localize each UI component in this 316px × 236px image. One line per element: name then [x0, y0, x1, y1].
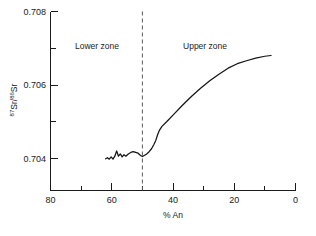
figure-container: 0.708 0.706 0.704 87Sr/86Sr 80 60 40 — [0, 0, 316, 236]
y-axis-title: 87Sr/86Sr — [9, 83, 19, 116]
plot-axes — [51, 12, 296, 191]
y-axis-title-end: Sr — [9, 83, 19, 92]
x-tick-label-40: 40 — [168, 195, 178, 205]
sr-isotope-line-chart: 0.708 0.706 0.704 87Sr/86Sr 80 60 40 — [0, 0, 316, 236]
y-tick-label-mid: 0.706 — [23, 80, 46, 90]
data-series-line — [106, 56, 271, 160]
x-tick-label-0: 0 — [293, 195, 298, 205]
x-axis-tick-labels: 80 60 40 20 0 — [45, 195, 298, 205]
lower-zone-label: Lower zone — [75, 41, 119, 51]
x-tick-label-60: 60 — [107, 195, 117, 205]
y-axis-ticks — [51, 12, 58, 159]
x-tick-label-80: 80 — [45, 195, 55, 205]
y-tick-label-bottom: 0.704 — [23, 154, 46, 164]
y-axis-tick-labels: 0.708 0.706 0.704 — [23, 7, 46, 164]
y-tick-label-top: 0.708 — [23, 7, 46, 17]
axis-lines — [51, 12, 296, 191]
x-tick-label-20: 20 — [229, 195, 239, 205]
svg-text:87Sr/86Sr: 87Sr/86Sr — [9, 83, 19, 116]
x-axis-ticks — [51, 183, 296, 191]
y-axis-title-mid: Sr/ — [9, 98, 19, 110]
upper-zone-label: Upper zone — [183, 41, 227, 51]
x-axis-title: % An — [163, 210, 183, 220]
